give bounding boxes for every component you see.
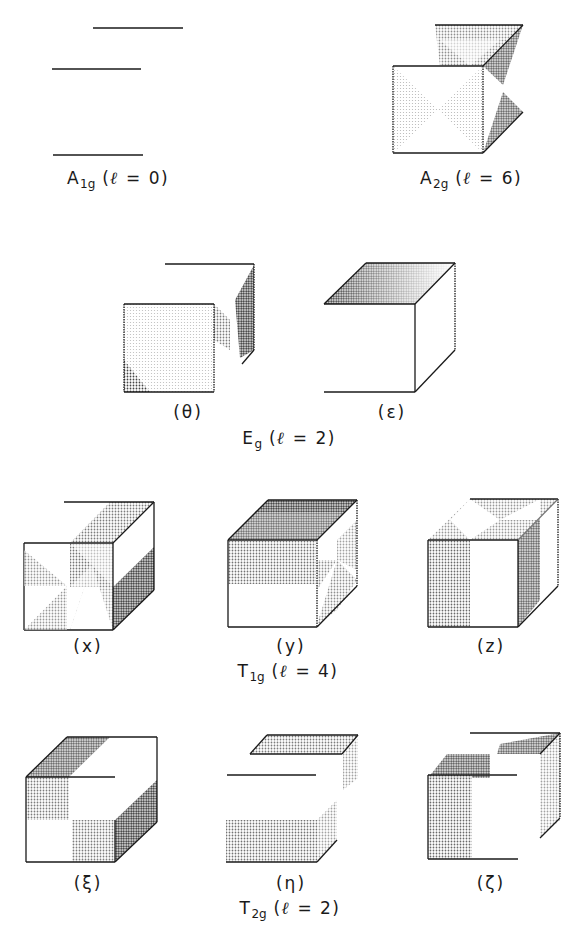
eg-epsilon-cube <box>324 263 455 392</box>
caption-a1g: A1g (ℓ = 0) <box>67 168 169 191</box>
panel-label-epsilon: (ε) <box>378 402 406 422</box>
caption-symbol: A <box>67 168 80 188</box>
panel-label-zeta: (ζ) <box>477 873 506 893</box>
cube-harmonics-diagram <box>0 0 581 945</box>
caption-paren: ( <box>269 428 277 448</box>
caption-l-symbol: ℓ <box>110 168 119 188</box>
caption-a2g: A2g (ℓ = 6) <box>420 168 522 191</box>
caption-l-value: = 4) <box>295 661 338 681</box>
caption-l-value: = 6) <box>479 168 522 188</box>
caption-paren: ( <box>274 898 282 918</box>
caption-subscript: 1g <box>249 670 264 684</box>
caption-l-value: = 2) <box>297 898 340 918</box>
caption-subscript: 1g <box>80 177 95 191</box>
panel-label-z: (z) <box>477 636 505 656</box>
caption-t2g: T2g (ℓ = 2) <box>240 898 341 921</box>
panel-label-xi: (ξ) <box>74 873 103 893</box>
caption-symbol: T <box>240 898 252 918</box>
caption-subscript: g <box>254 437 262 451</box>
caption-subscript: 2g <box>251 907 266 921</box>
caption-t1g: T1g (ℓ = 4) <box>238 661 339 684</box>
t1g-x-cube <box>24 502 154 630</box>
a1g-cube <box>52 28 183 155</box>
panel-label-eta: (η) <box>276 873 306 893</box>
caption-l-symbol: ℓ <box>463 168 472 188</box>
eg-theta-cube <box>124 264 254 392</box>
t2g-zeta-cube <box>428 733 560 859</box>
t1g-y-cube <box>228 500 357 627</box>
t2g-eta-cube <box>226 735 358 862</box>
caption-eg: Eg (ℓ = 2) <box>242 428 336 451</box>
caption-paren: ( <box>272 661 280 681</box>
caption-l-symbol: ℓ <box>282 898 291 918</box>
t2g-xi-cube <box>26 737 157 862</box>
a2g-cube <box>393 25 523 153</box>
caption-subscript: 2g <box>433 177 448 191</box>
panel-label-x: (x) <box>73 636 102 656</box>
caption-l-value: = 2) <box>293 428 336 448</box>
caption-l-symbol: ℓ <box>277 428 286 448</box>
caption-l-value: = 0) <box>126 168 169 188</box>
t1g-z-cube <box>428 499 558 627</box>
caption-symbol: T <box>238 661 250 681</box>
caption-symbol: A <box>420 168 433 188</box>
panel-label-y: (y) <box>276 636 305 656</box>
panel-label-theta: (θ) <box>173 402 203 422</box>
caption-symbol: E <box>242 428 254 448</box>
caption-l-symbol: ℓ <box>280 661 289 681</box>
